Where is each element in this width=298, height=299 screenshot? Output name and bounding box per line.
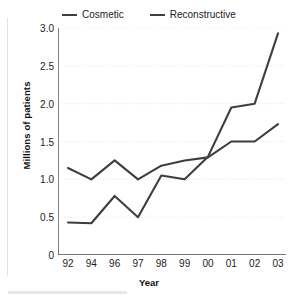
plot-area [58,28,286,255]
x-tick-label: 02 [249,258,260,269]
y-tick-label: 0.5 [28,212,54,223]
x-tick-label: 97 [132,258,143,269]
y-axis-tick-labels: 00.51.01.52.02.53.0 [22,28,54,255]
page-edge-rule-left [7,18,8,276]
chart-legend: Cosmetic Reconstructive [0,6,298,24]
x-tick-label: 92 [62,258,73,269]
page-edge-rule-bottom [8,291,127,294]
x-tick-label: 99 [179,258,190,269]
x-tick-label: 00 [202,258,213,269]
chart-svg [58,28,286,255]
x-tick-label: 01 [226,258,237,269]
legend-label-cosmetic: Cosmetic [82,10,124,20]
gridlines [58,28,286,217]
line-swatch-icon [150,14,165,16]
x-tick-label: 03 [272,258,283,269]
y-tick-label: 1.5 [28,136,54,147]
line-swatch-icon [62,14,77,16]
y-tick-label: 2.0 [28,98,54,109]
y-tick-label: 3.0 [28,23,54,34]
x-axis-tick-labels: 92949697989900010203 [58,258,286,274]
x-axis-title: Year [0,277,298,288]
legend-item-reconstructive[interactable]: Reconstructive [150,10,236,20]
y-tick-label: 1.0 [28,174,54,185]
x-tick-label: 94 [86,258,97,269]
series-line-reconstructive [68,124,278,179]
x-tick-label: 98 [156,258,167,269]
series-line-cosmetic [68,33,278,223]
y-tick-label: 0 [28,250,54,261]
x-tick-label: 96 [109,258,120,269]
chart-container: Cosmetic Reconstructive Millions of pati… [0,0,298,299]
legend-label-reconstructive: Reconstructive [170,10,236,20]
y-tick-label: 2.5 [28,60,54,71]
legend-item-cosmetic[interactable]: Cosmetic [62,10,124,20]
